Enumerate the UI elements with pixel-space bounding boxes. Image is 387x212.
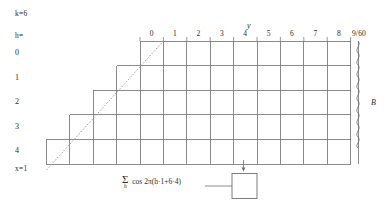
summation-symbol: Σ h bbox=[122, 176, 128, 189]
x-value-label: x=1 bbox=[15, 164, 27, 173]
column-label-7: 7 bbox=[306, 29, 326, 38]
result-box bbox=[232, 174, 257, 199]
row-header-label: h= bbox=[15, 31, 23, 40]
column-label-3: 3 bbox=[212, 29, 232, 38]
column-label-4: 4 bbox=[235, 29, 255, 38]
summation-formula: Σ h cos 2π(h·1+6·4) bbox=[122, 176, 181, 189]
column-label-2: 2 bbox=[189, 29, 209, 38]
brace-label-b: B bbox=[371, 98, 376, 107]
diagonal-dashed-line bbox=[46, 41, 163, 170]
row-label-4: 4 bbox=[15, 146, 19, 155]
figure-canvas: k=6 h= 0 1 2 3 4 x=1 y 0 1 2 3 4 5 6 7 8… bbox=[0, 0, 387, 212]
formula-expression: cos 2π(h·1+6·4) bbox=[132, 177, 181, 186]
sigma-glyph: Σ bbox=[122, 176, 128, 183]
column-label-5: 5 bbox=[259, 29, 279, 38]
k-value-label: k=6 bbox=[15, 9, 27, 18]
column-label-9-60: 9/60 bbox=[345, 29, 373, 38]
down-arrow-icon bbox=[242, 160, 246, 172]
row-label-1: 1 bbox=[15, 73, 19, 82]
row-label-3: 3 bbox=[15, 122, 19, 131]
column-label-6: 6 bbox=[282, 29, 302, 38]
row-label-2: 2 bbox=[15, 97, 19, 106]
row-label-0: 0 bbox=[15, 48, 19, 57]
column-label-0: 0 bbox=[142, 29, 162, 38]
column-label-1: 1 bbox=[165, 29, 185, 38]
